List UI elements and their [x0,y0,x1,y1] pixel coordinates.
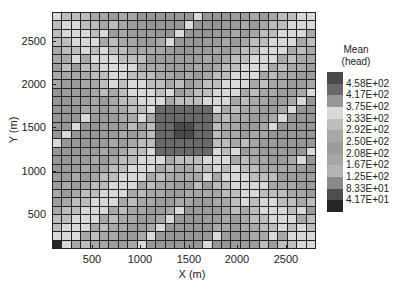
heatmap-cell [241,139,249,146]
heatmap-cell [250,232,258,239]
heatmap-cell [138,106,146,113]
heatmap-cell [231,232,239,239]
heatmap-cell [81,215,89,222]
heatmap-cell [288,123,296,130]
heatmap-cell [250,182,258,189]
colorbar-swatch [327,95,343,107]
heatmap-cell [109,106,117,113]
heatmap-cell [250,207,258,214]
heatmap-cell [288,21,296,28]
heatmap-cell [72,131,80,138]
heatmap-cell [288,173,296,180]
heatmap-cell [278,148,286,155]
heatmap-cell [185,80,193,87]
heatmap-cell [260,64,268,71]
heatmap-cell [81,241,89,248]
heatmap-cell [231,21,239,28]
heatmap-cell [231,123,239,130]
heatmap-cell [53,156,61,163]
heatmap-cell [175,241,183,248]
heatmap-cell [222,80,230,87]
heatmap-cell [307,21,315,28]
heatmap-cell [222,232,230,239]
heatmap-cell [91,207,99,214]
heatmap-cell [53,47,61,54]
heatmap-cell [156,89,164,96]
heatmap-cell [203,215,211,222]
heatmap-cell [72,64,80,71]
heatmap-cell [307,72,315,79]
heatmap-cell [307,131,315,138]
heatmap-cell [156,148,164,155]
heatmap-cell [100,131,108,138]
heatmap-cell [297,30,305,37]
heatmap-cell [222,173,230,180]
heatmap-cell [166,38,174,45]
heatmap-cell [91,139,99,146]
y-tick-mark [52,171,56,172]
heatmap-cell [241,114,249,121]
heatmap-cell [100,64,108,71]
heatmap-cell [260,47,268,54]
heatmap-cell [81,89,89,96]
heatmap-cell [53,173,61,180]
heatmap-cell [166,21,174,28]
heatmap-cell [147,97,155,104]
heatmap-cell [260,114,268,121]
colorbar-swatch [327,142,343,154]
heatmap-cell [250,114,258,121]
heatmap-cell [156,232,164,239]
heatmap-cell [203,198,211,205]
heatmap-cell [297,182,305,189]
heatmap-cell [81,148,89,155]
heatmap-cell [297,207,305,214]
heatmap-cell [138,80,146,87]
heatmap-cell [166,30,174,37]
heatmap-cell [288,139,296,146]
heatmap-cell [81,182,89,189]
heatmap-cell [156,123,164,130]
heatmap-cell [307,80,315,87]
heatmap-cell [156,38,164,45]
heatmap-cell [269,13,277,20]
heatmap-cell [222,106,230,113]
heatmap-cell [269,72,277,79]
heatmap-cell [194,97,202,104]
heatmap-cell [241,148,249,155]
heatmap-cell [119,165,127,172]
heatmap-cell [250,131,258,138]
heatmap-cell [128,13,136,20]
heatmap-cell [119,64,127,71]
heatmap-cell [185,72,193,79]
heatmap-cell [72,173,80,180]
heatmap-cell [156,106,164,113]
heatmap-cell [194,156,202,163]
heatmap-cell [241,72,249,79]
heatmap-cell [91,38,99,45]
heatmap-cell [109,139,117,146]
y-tick-mark [52,41,56,42]
heatmap-cell [62,123,70,130]
heatmap-cell [81,224,89,231]
heatmap-cell [81,156,89,163]
heatmap-cell [278,38,286,45]
heatmap-cell [194,47,202,54]
heatmap-cell [72,148,80,155]
heatmap-cell [278,47,286,54]
heatmap-cell [147,148,155,155]
colorbar-label: 1.25E+02 [346,171,389,182]
heatmap-cell [119,114,127,121]
heatmap-cell [203,55,211,62]
heatmap-cell [260,224,268,231]
heatmap-cell [91,131,99,138]
heatmap-cell [81,72,89,79]
heatmap-cell [278,156,286,163]
heatmap-cell [260,215,268,222]
colorbar-swatch [327,177,343,189]
heatmap-cell [100,114,108,121]
heatmap-cell [307,241,315,248]
heatmap-cell [53,148,61,155]
heatmap-cell [62,38,70,45]
heatmap-cell [128,156,136,163]
heatmap-cell [109,55,117,62]
